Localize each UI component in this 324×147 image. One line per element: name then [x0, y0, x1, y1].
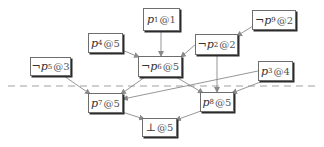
literal-variable: p	[91, 97, 98, 110]
node-p1: p1@1	[143, 8, 180, 31]
literal-variable: p	[261, 65, 268, 78]
edge-p6-to-p8	[176, 77, 203, 93]
decision-level: @5	[157, 122, 173, 133]
edge-p7-to-bot	[122, 112, 144, 119]
literal-subscript: 1	[154, 16, 158, 24]
decision-level: @5	[215, 97, 231, 108]
literal-variable: p	[207, 38, 214, 51]
literal-variable: p	[41, 60, 48, 73]
literal-subscript: 9	[271, 16, 275, 24]
literal-subscript: 8	[210, 98, 214, 106]
decision-level: @2	[277, 15, 293, 26]
node-p5: ¬p5@3	[30, 57, 71, 76]
literal-subscript: 6	[157, 63, 161, 71]
literal-variable: p	[203, 96, 210, 109]
decision-level: @3	[53, 61, 69, 72]
node-p2: ¬p2@2	[195, 34, 238, 55]
decision-level: @4	[274, 66, 290, 77]
literal-subscript: 4	[98, 39, 102, 47]
decision-level: @1	[160, 14, 176, 25]
node-p7: p7@5	[88, 93, 123, 113]
edge-p4-to-p6	[122, 50, 139, 57]
decision-level: @5	[104, 38, 120, 49]
edge-p2-to-p6	[181, 44, 196, 57]
node-p6: ¬p6@5	[138, 56, 182, 77]
literal-variable: ⊥	[146, 121, 156, 134]
literal-variable: p	[147, 13, 154, 26]
literal-subscript: 7	[98, 99, 102, 107]
literal-variable: p	[150, 60, 157, 73]
edge-p8-to-bot	[176, 111, 201, 120]
edge-p5-to-p7	[64, 76, 90, 94]
decision-level: @2	[219, 39, 235, 50]
negation-symbol: ¬	[31, 60, 40, 73]
literal-subscript: 2	[214, 41, 218, 49]
literal-variable: p	[264, 14, 271, 27]
negation-symbol: ¬	[197, 38, 206, 51]
node-bot: ⊥@5	[142, 118, 177, 137]
literal-subscript: 3	[268, 67, 272, 75]
node-p9: ¬p9@2	[252, 10, 296, 30]
node-p8: p8@5	[200, 92, 234, 112]
node-p3: p3@4	[258, 61, 293, 81]
negation-symbol: ¬	[255, 14, 264, 27]
node-p4: p4@5	[88, 33, 123, 53]
edge-p3-to-p8	[232, 81, 263, 93]
literal-variable: p	[91, 37, 98, 50]
decision-level: @5	[104, 98, 120, 109]
implication-graph: p1@1¬p9@2p4@5¬p2@2¬p6@5¬p5@3p3@4p7@5p8@5…	[0, 0, 324, 147]
edge-p9-to-p2	[237, 26, 253, 36]
decision-level: @5	[163, 61, 179, 72]
literal-subscript: 5	[48, 63, 52, 71]
negation-symbol: ¬	[141, 60, 150, 73]
